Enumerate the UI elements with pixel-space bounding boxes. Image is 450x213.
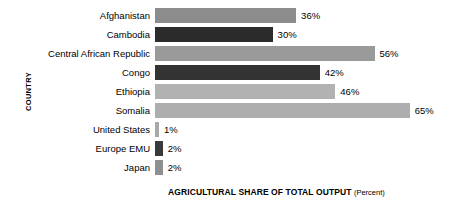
bar-value-label: 30%	[278, 25, 297, 44]
bar[interactable]	[155, 103, 410, 118]
chart-row: Ethiopia46%	[0, 82, 450, 101]
category-label: Afghanistan	[0, 6, 150, 25]
chart-row: Afghanistan36%	[0, 6, 450, 25]
bar[interactable]	[155, 141, 163, 156]
bar-value-label: 2%	[168, 158, 182, 177]
category-label: Cambodia	[0, 25, 150, 44]
plot-area: Afghanistan36%Cambodia30%Central African…	[0, 6, 450, 182]
category-label: Congo	[0, 63, 150, 82]
chart-row: United States1%	[0, 120, 450, 139]
category-label: United States	[0, 120, 150, 139]
bar-chart: COUNTRY Afghanistan36%Cambodia30%Central…	[0, 0, 450, 213]
bar-value-label: 65%	[415, 101, 434, 120]
chart-row: Cambodia30%	[0, 25, 450, 44]
chart-row: Europe EMU2%	[0, 139, 450, 158]
bar[interactable]	[155, 8, 296, 23]
bar-value-label: 42%	[325, 63, 344, 82]
category-label: Ethiopia	[0, 82, 150, 101]
category-label: Central African Republic	[0, 44, 150, 63]
chart-row: Central African Republic56%	[0, 44, 450, 63]
bar[interactable]	[155, 65, 320, 80]
category-label: Somalia	[0, 101, 150, 120]
bar-value-label: 2%	[168, 139, 182, 158]
bar[interactable]	[155, 122, 159, 137]
bar-value-label: 46%	[340, 82, 359, 101]
bar[interactable]	[155, 27, 273, 42]
chart-row: Congo42%	[0, 63, 450, 82]
x-axis-title-text: AGRICULTURAL SHARE OF TOTAL OUTPUT	[168, 187, 351, 197]
category-label: Europe EMU	[0, 139, 150, 158]
chart-row: Japan2%	[0, 158, 450, 177]
x-axis-title: AGRICULTURAL SHARE OF TOTAL OUTPUT (Perc…	[168, 187, 385, 197]
bar[interactable]	[155, 46, 375, 61]
bar-value-label: 56%	[380, 44, 399, 63]
bar-value-label: 1%	[164, 120, 178, 139]
x-axis-unit: (Percent)	[354, 188, 385, 197]
category-label: Japan	[0, 158, 150, 177]
chart-row: Somalia65%	[0, 101, 450, 120]
bar[interactable]	[155, 84, 335, 99]
bar[interactable]	[155, 160, 163, 175]
bar-value-label: 36%	[301, 6, 320, 25]
